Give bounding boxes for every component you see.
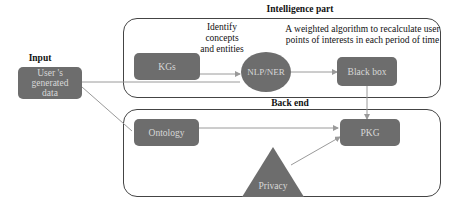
privacy-node: Privacy [242,147,304,197]
ontology-node: Ontology [134,119,199,146]
identify-annotation: Identify concepts and entities [200,22,244,55]
privacy-label: Privacy [242,181,304,192]
weighted-annotation: A weighted algorithm to recalculate user… [285,24,440,46]
nlp-ner-node: NLP/NER [241,52,291,92]
kgs-node: KGs [134,53,200,80]
pkg-node: PKG [340,119,400,146]
user-data-node: User 's generated data [18,67,82,99]
black-box-node: Black box [337,57,397,86]
